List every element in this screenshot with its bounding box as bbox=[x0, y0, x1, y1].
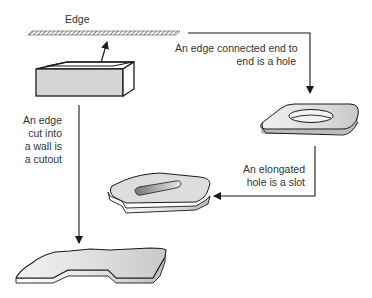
cutout-caption-line-3: a wall is bbox=[10, 140, 62, 153]
box-shape bbox=[36, 62, 134, 96]
slot-caption: An elongated hole is a slot bbox=[235, 163, 305, 189]
cutout-caption-line-2: cut into bbox=[10, 127, 62, 140]
cutout-caption: An edge cut into a wall is a cutout bbox=[10, 114, 62, 166]
edge-shape bbox=[28, 31, 180, 35]
cutout-caption-line-1: An edge bbox=[10, 114, 62, 127]
cutout-caption-line-4: a cutout bbox=[10, 153, 62, 166]
slot-plate-shape bbox=[108, 173, 210, 213]
slot-caption-line-1: An elongated bbox=[235, 163, 305, 176]
hole-plate-shape bbox=[261, 104, 359, 135]
slot-caption-line-2: hole is a slot bbox=[235, 176, 305, 189]
hole-caption: An edge connected end to end is a hole bbox=[175, 42, 296, 68]
edge-label: Edge bbox=[65, 13, 90, 26]
hole-caption-line-1: An edge connected end to bbox=[175, 42, 296, 55]
hole-caption-line-2: end is a hole bbox=[175, 55, 296, 68]
cutout-plate-shape bbox=[16, 248, 166, 283]
